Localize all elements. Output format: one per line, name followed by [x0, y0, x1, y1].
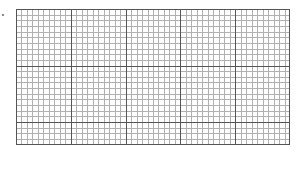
grid-lines [16, 9, 290, 145]
chart-grid [16, 9, 290, 145]
corner-marker [2, 14, 4, 16]
